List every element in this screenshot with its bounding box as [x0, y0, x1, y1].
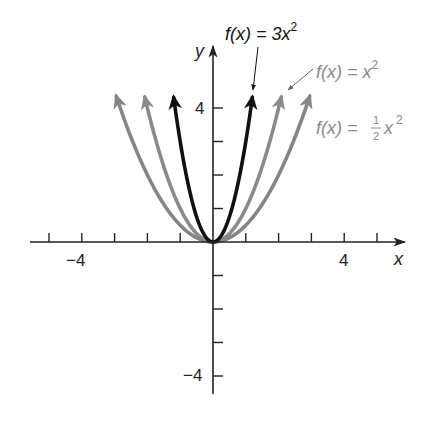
label-x-squared-exponent: 2 — [372, 58, 379, 72]
label-half-x-squared: f(x) = 1 2 x 2 — [316, 113, 403, 142]
label-3x-squared-exponent: 2 — [291, 20, 298, 34]
label-3x-squared: f(x) = 3x2 — [225, 20, 298, 44]
y-tick-label-4: 4 — [195, 99, 204, 118]
label-half-prefix: f(x) = — [316, 118, 358, 138]
x-tick-label-4: 4 — [339, 251, 348, 270]
label-x-squared-main: f(x) = x — [316, 62, 373, 82]
pointer-3x-squared — [253, 47, 258, 90]
label-half-denominator: 2 — [373, 130, 379, 142]
x-axis-label: x — [393, 249, 404, 269]
x-tick-label-neg4: −4 — [66, 251, 85, 270]
label-half-exponent: 2 — [396, 113, 403, 127]
label-half-numerator: 1 — [373, 114, 379, 126]
y-tick-label-neg4: −4 — [183, 366, 202, 385]
y-axis-label: y — [193, 41, 205, 61]
parabola-chart: −4 4 4 −4 x y f(x) = 3x2 f(x) = x2 f(x) … — [0, 0, 436, 424]
pointer-x-squared — [288, 69, 313, 90]
label-x-squared: f(x) = x2 — [316, 58, 379, 82]
label-half-var: x — [383, 118, 394, 138]
label-3x-squared-main: f(x) = 3x — [225, 24, 292, 44]
